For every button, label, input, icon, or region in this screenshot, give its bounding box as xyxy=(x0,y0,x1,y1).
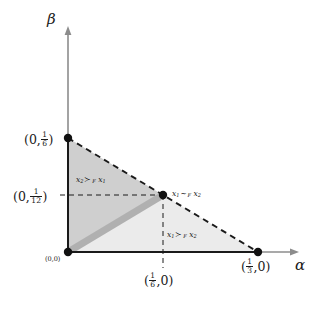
x-intercept-open-paren: ( xyxy=(241,259,246,274)
x-intercept-suffix: ,0) xyxy=(254,259,271,274)
x-vertex-suffix: ,0) xyxy=(157,273,174,288)
x-vertex-label: (16,0) xyxy=(144,272,173,289)
lower-region-label: x1≻F x2 xyxy=(167,231,197,239)
x-intercept-fraction: 13 xyxy=(246,258,253,275)
y-mid-prefix: (0, xyxy=(13,189,30,204)
y-intercept-label: (0,16) xyxy=(24,131,53,148)
x-intercept-label: (13,0) xyxy=(241,258,270,275)
y-mid-close-paren: ) xyxy=(42,189,47,204)
y-intercept-close-paren: ) xyxy=(49,132,54,147)
point-y-intercept xyxy=(64,134,72,142)
x-vertex-open-paren: ( xyxy=(144,273,149,288)
point-x-intercept xyxy=(254,248,262,256)
origin-label: (0,0) xyxy=(45,256,60,263)
x-vertex-fraction: 16 xyxy=(149,272,156,289)
point-vertex xyxy=(159,191,167,199)
y-mid-label: (0,112) xyxy=(13,188,47,205)
y-axis-arrowhead xyxy=(65,26,72,35)
y-intercept-prefix: (0, xyxy=(24,132,41,147)
preference-region-diagram: β α (0,16) (0,112) (0,0) (16,0) (13,0) x… xyxy=(0,0,318,310)
x-axis-arrowhead xyxy=(290,249,299,256)
vertex-indifference-label: x1∼F x2 xyxy=(172,190,201,198)
y-mid-fraction: 112 xyxy=(30,188,41,205)
y-axis-label: β xyxy=(47,12,56,27)
upper-region-label: x2≻F x1 xyxy=(76,176,106,184)
y-intercept-fraction: 16 xyxy=(41,131,48,148)
point-origin xyxy=(64,248,72,256)
x-axis-label: α xyxy=(295,258,305,273)
